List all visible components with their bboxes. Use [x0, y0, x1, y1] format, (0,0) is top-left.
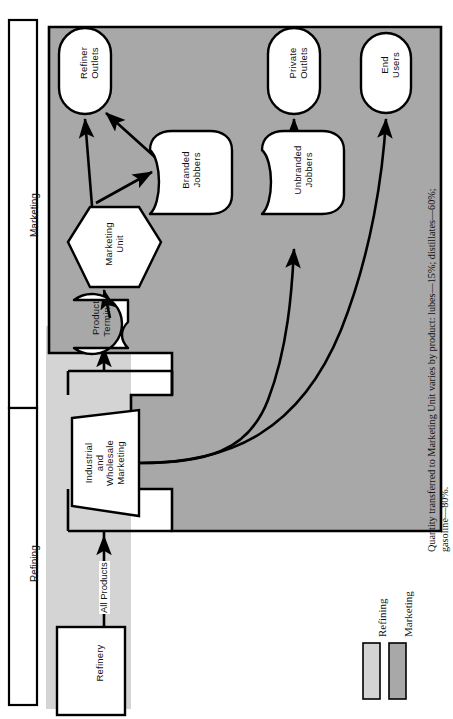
node-label-refinery: Refinery [95, 623, 106, 703]
node-label-product-terminal: Product Terminal [91, 291, 112, 345]
node-label-unbranded-jobbers: Unbranded Jobbers [293, 131, 314, 209]
legend-label-refining: Refining [376, 599, 388, 638]
edge-label-all-products: All Products [99, 561, 110, 614]
bracket-label-refining: Refining [29, 545, 40, 582]
node-refinery[interactable] [57, 627, 125, 715]
legend-swatch-marketing [389, 643, 406, 699]
node-label-private-outlets: Private Outlets [288, 25, 309, 101]
bracket-label-marketing: Marketing [29, 193, 40, 237]
legend-swatch-refining [363, 643, 380, 699]
node-label-end-users: End Users [380, 30, 401, 100]
node-label-marketing-unit: Marketing Unit [104, 207, 125, 281]
node-label-industrial-wholesale-marketing: Industrial and Wholesale Marketing [84, 414, 127, 512]
legend-label-marketing: Marketing [402, 591, 414, 637]
node-label-refiner-outlets: Refiner Outlets [79, 25, 100, 101]
node-label-branded-jobbers: Branded Jobbers [181, 133, 202, 207]
figure-caption-line-2: gasoline—80%. [438, 487, 453, 552]
